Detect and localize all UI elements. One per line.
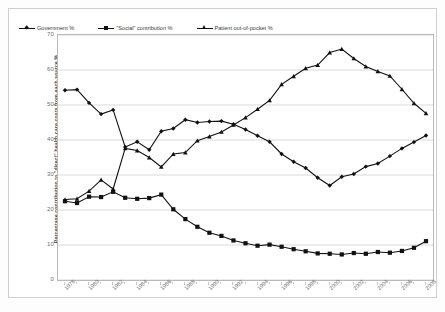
x-minor-tick xyxy=(100,282,101,284)
data-point-square xyxy=(340,252,344,256)
data-point-diamond xyxy=(63,88,67,92)
data-point-square xyxy=(364,252,368,256)
x-minor-tick xyxy=(281,282,282,284)
legend-marker-triangle-icon xyxy=(197,28,213,29)
data-point-diamond xyxy=(243,127,247,131)
data-point-diamond xyxy=(412,140,416,144)
legend-label-government: Government % xyxy=(37,25,74,31)
x-minor-tick xyxy=(341,282,342,284)
x-minor-tick xyxy=(196,282,197,284)
data-point-square xyxy=(195,225,199,229)
x-minor-tick xyxy=(257,282,258,284)
data-point-square xyxy=(231,238,235,242)
data-point-square xyxy=(183,217,187,221)
data-point-square xyxy=(99,195,103,199)
legend-marker-diamond-icon xyxy=(19,28,35,29)
x-minor-tick xyxy=(208,282,209,284)
x-minor-tick xyxy=(245,282,246,284)
x-minor-tick xyxy=(269,282,270,284)
data-point-square xyxy=(147,196,151,200)
data-point-square xyxy=(424,239,428,243)
data-point-square xyxy=(255,244,259,248)
data-point-diamond xyxy=(219,119,223,123)
data-point-square xyxy=(292,247,296,251)
x-minor-tick xyxy=(112,282,113,284)
x-minor-tick xyxy=(148,282,149,284)
chart-legend: Government % "Social" contribution % Pat… xyxy=(19,25,273,31)
data-point-square xyxy=(159,193,163,197)
data-point-square xyxy=(352,251,356,255)
data-point-diamond xyxy=(424,133,428,137)
x-minor-tick xyxy=(365,282,366,284)
data-point-square xyxy=(171,207,175,211)
data-point-triangle xyxy=(339,47,344,51)
legend-item-social[interactable]: "Social" contribution % xyxy=(98,25,172,31)
x-minor-tick xyxy=(136,282,137,284)
x-minor-tick xyxy=(413,282,414,284)
data-point-square xyxy=(304,249,308,253)
chart-svg xyxy=(58,35,433,280)
y-tick-label: 0 xyxy=(50,276,54,282)
x-minor-tick xyxy=(220,282,221,284)
chart-page: 010203040506070 Percentage contribution … xyxy=(0,0,445,312)
data-point-triangle xyxy=(99,178,104,182)
data-point-square xyxy=(87,195,91,199)
data-point-triangle xyxy=(147,155,152,159)
x-minor-tick xyxy=(160,282,161,284)
data-point-square xyxy=(75,201,79,205)
x-minor-tick xyxy=(353,282,354,284)
x-minor-tick xyxy=(425,282,426,284)
legend-label-patient: Patient out-of-pocket % xyxy=(215,25,273,31)
x-minor-tick xyxy=(293,282,294,284)
data-point-square xyxy=(280,245,284,249)
x-minor-tick xyxy=(305,282,306,284)
data-point-square xyxy=(376,250,380,254)
data-point-diamond xyxy=(207,119,211,123)
x-minor-tick xyxy=(172,282,173,284)
legend-item-patient[interactable]: Patient out-of-pocket % xyxy=(197,25,273,31)
legend-marker-square-icon xyxy=(98,28,114,29)
legend-label-social: "Social" contribution % xyxy=(116,25,172,31)
x-minor-tick xyxy=(88,282,89,284)
series-line xyxy=(65,49,426,200)
x-minor-tick xyxy=(124,282,125,284)
data-point-square xyxy=(219,234,223,238)
x-minor-tick xyxy=(317,282,318,284)
data-point-square xyxy=(412,246,416,250)
series-2 xyxy=(63,190,428,257)
x-axis-tick-labels: 1978198019821984198619881990199219941996… xyxy=(57,282,434,312)
y-axis-tick-labels: 010203040506070 xyxy=(37,34,54,281)
series-line xyxy=(65,90,426,186)
y-axis-title-wrap: Percentage contribution to "direct" heal… xyxy=(27,34,37,281)
legend-item-government[interactable]: Government % xyxy=(19,25,74,31)
data-point-diamond xyxy=(111,108,115,112)
data-point-diamond xyxy=(255,134,259,138)
x-minor-tick xyxy=(64,282,65,284)
x-minor-tick xyxy=(377,282,378,284)
x-minor-tick xyxy=(184,282,185,284)
data-point-diamond xyxy=(195,120,199,124)
data-point-triangle xyxy=(219,130,224,134)
x-minor-tick xyxy=(76,282,77,284)
data-point-square xyxy=(267,243,271,247)
x-minor-tick xyxy=(232,282,233,284)
data-point-square xyxy=(316,251,320,255)
data-point-square xyxy=(123,196,127,200)
x-minor-tick xyxy=(401,282,402,284)
data-point-square xyxy=(388,251,392,255)
plot-area xyxy=(57,34,434,281)
x-minor-tick xyxy=(389,282,390,284)
data-point-square xyxy=(135,197,139,201)
data-point-square xyxy=(207,231,211,235)
x-minor-tick xyxy=(329,282,330,284)
data-point-square xyxy=(243,241,247,245)
figure-frame: 010203040506070 Percentage contribution … xyxy=(8,8,437,298)
data-point-square xyxy=(328,252,332,256)
data-point-square xyxy=(400,249,404,253)
